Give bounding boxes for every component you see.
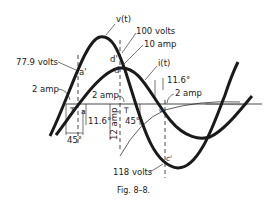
- point-c: c: [159, 105, 163, 114]
- leader-77v: [58, 62, 76, 70]
- point-a-prime: a': [79, 67, 87, 77]
- leader-i: [145, 66, 157, 80]
- angle-45-mid: 45°: [125, 116, 140, 126]
- amp-vertical-label: 12 amp: [109, 108, 119, 140]
- voltage-curve-label: v(t): [116, 14, 131, 24]
- leader-v: [106, 24, 115, 35]
- leader-10a: [124, 45, 143, 64]
- current-curve-label: i(t): [158, 58, 170, 68]
- i-peak-label: 10 amp: [144, 39, 176, 49]
- figure-caption: Fig. 8–8.: [117, 186, 150, 195]
- v-c-label: 118 volts: [113, 167, 153, 177]
- point-d: d: [114, 65, 119, 75]
- angle-45-left: 45°: [67, 135, 82, 145]
- i-mid-label: 2 amp: [92, 90, 119, 100]
- leader-100v: [122, 33, 136, 53]
- point-d-prime: d': [110, 54, 118, 64]
- leader-2a-right: [167, 94, 174, 103]
- angle-11-left: 11.6°: [88, 116, 111, 126]
- axis-tail: [205, 104, 245, 105]
- angle-11-right: 11.6°: [167, 75, 190, 85]
- marker-T-left: T: [69, 106, 75, 115]
- marker-T-mid: T: [123, 106, 129, 115]
- i-right-label: 2 amp: [175, 88, 202, 98]
- v-a-label: 77.9 volts: [16, 57, 59, 67]
- i-left-label: 2 amp: [32, 84, 59, 94]
- v-peak-label: 100 volts: [136, 26, 176, 36]
- point-a: a: [81, 107, 86, 116]
- point-c-prime: c': [166, 154, 172, 163]
- phasor-waveform-diagram: v(t) 100 volts 10 amp i(t) d' d a' a c c…: [0, 0, 277, 203]
